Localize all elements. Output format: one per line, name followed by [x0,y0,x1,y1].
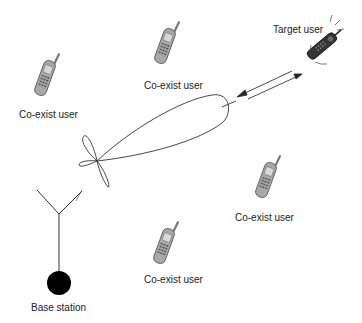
coexist-phone-1 [33,51,60,97]
beam-pattern [76,95,236,201]
coexist-phone-2 [153,19,180,65]
target-label: Target user [273,24,323,35]
coexist-phone-3 [254,153,281,199]
coexist-label-4: Co-exist user [144,274,203,285]
bidirectional-arrow [237,71,302,99]
coexist-phone-4 [152,219,179,265]
base-station-node [47,271,71,295]
antenna-icon [37,190,82,280]
coexist-label-3: Co-exist user [235,212,294,223]
base-station-label: Base station [31,302,86,313]
coexist-label-2: Co-exist user [144,80,203,91]
coexist-label-1: Co-exist user [19,109,78,120]
